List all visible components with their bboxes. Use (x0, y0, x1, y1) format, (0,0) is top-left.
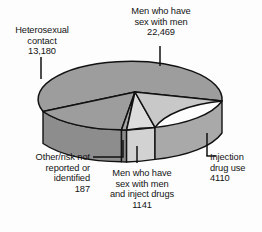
label-msm-and-inject-drugs: Men who have sex with men and inject dru… (98, 168, 186, 210)
label-other-risk-not-reported: Other/risk not reported or identified 18… (2, 152, 90, 194)
label-injection-drug-use: Injection drug use 4110 (210, 152, 262, 184)
side-wall-msm-idu (127, 127, 155, 162)
label-men-who-have-sex-with-men: Men who have sex with men 22,469 (118, 6, 204, 38)
label-heterosexual-contact: Heterosexual contact 13,180 (4, 25, 80, 57)
pie-chart-figure: Men who have sex with men 22,469 Heteros… (0, 0, 262, 232)
